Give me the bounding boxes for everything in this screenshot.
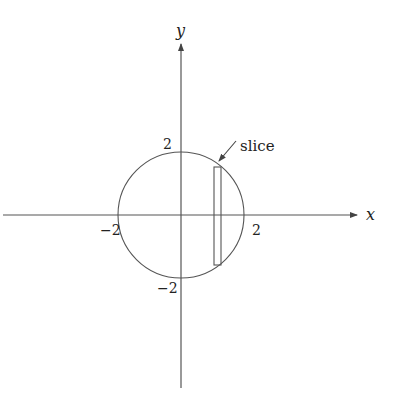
tick-label-y-pos: 2 [163, 136, 172, 152]
tick-label-y-neg: −2 [157, 280, 178, 296]
diagram-canvas: y x 2 −2 2 −2 slice [0, 0, 415, 393]
slice-label: slice [240, 137, 275, 155]
tick-label-x-pos: 2 [252, 222, 261, 238]
tick-label-x-neg: −2 [100, 222, 121, 238]
slice-rectangle [214, 167, 221, 265]
slice-arrow-icon [219, 141, 236, 161]
x-axis-label: x [366, 205, 375, 224]
diagram-svg: y x 2 −2 2 −2 slice [0, 0, 415, 393]
y-axis-label: y [175, 21, 186, 40]
